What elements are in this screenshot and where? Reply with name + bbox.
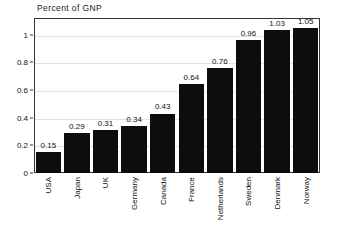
y-tick-label: 0.8	[17, 58, 28, 67]
bar	[64, 133, 90, 173]
bar-value-label: 0.31	[98, 119, 114, 128]
x-label-slot: Denmark	[264, 175, 290, 233]
bar-value-label: 0.29	[69, 122, 85, 131]
bar-slot: 0.96	[236, 18, 262, 173]
bar	[207, 68, 233, 173]
bar-value-label: 0.76	[212, 57, 228, 66]
x-label-slot: Germany	[121, 175, 147, 233]
bar-slot: 0.64	[179, 18, 205, 173]
x-tick-label: Japan	[72, 177, 81, 199]
bar	[179, 84, 205, 173]
bars-layer: 0.150.290.310.340.430.640.760.961.031.05	[34, 18, 320, 173]
bar-value-label: 1.03	[269, 19, 285, 28]
bar	[36, 152, 62, 173]
bar-slot: 0.43	[150, 18, 176, 173]
bar	[121, 126, 147, 173]
bar-slot: 0.31	[93, 18, 119, 173]
bar-value-label: 0.15	[41, 141, 57, 150]
bar-value-label: 1.05	[298, 17, 314, 26]
x-label-slot: Norway	[293, 175, 319, 233]
x-tick-label: Sweden	[244, 177, 253, 206]
x-tick-label: Canada	[158, 177, 167, 205]
bar-slot: 0.15	[36, 18, 62, 173]
bar-value-label: 0.34	[126, 115, 142, 124]
y-tick-mark	[30, 117, 33, 118]
x-tick-label: Norway	[301, 177, 310, 204]
y-tick-mark	[30, 34, 33, 35]
bar	[293, 28, 319, 173]
x-label-slot: UK	[93, 175, 119, 233]
y-tick-label: 0.6	[17, 85, 28, 94]
bar-slot: 1.03	[264, 18, 290, 173]
x-label-slot: Japan	[64, 175, 90, 233]
bar	[264, 30, 290, 173]
x-label-slot: Sweden	[236, 175, 262, 233]
bar-slot: 1.05	[293, 18, 319, 173]
y-axis: 00.20.40.60.81	[0, 18, 32, 173]
bar-slot: 0.29	[64, 18, 90, 173]
y-tick-mark	[30, 89, 33, 90]
x-label-slot: USA	[36, 175, 62, 233]
x-tick-label: Germany	[130, 177, 139, 210]
bar-value-label: 0.64	[184, 73, 200, 82]
y-tick-label: 0.2	[17, 141, 28, 150]
x-tick-label: Netherlands	[215, 177, 224, 220]
x-tick-label: France	[187, 177, 196, 202]
x-label-slot: Canada	[150, 175, 176, 233]
chart-title: Percent of GNP	[37, 3, 102, 13]
x-label-slot: Netherlands	[207, 175, 233, 233]
y-tick-mark	[30, 173, 33, 174]
x-axis-labels: USAJapanUKGermanyCanadaFranceNetherlands…	[34, 175, 320, 233]
x-tick-label: Denmark	[273, 177, 282, 209]
bar-chart: Percent of GNP 00.20.40.60.81 0.150.290.…	[0, 0, 339, 233]
bar-value-label: 0.43	[155, 102, 171, 111]
x-tick-label: UK	[101, 177, 110, 188]
x-label-slot: France	[179, 175, 205, 233]
bar-value-label: 0.96	[241, 29, 257, 38]
bar	[93, 130, 119, 173]
bar	[150, 114, 176, 174]
y-tick-mark	[30, 145, 33, 146]
bar	[236, 40, 262, 173]
y-tick-label: 0	[24, 169, 28, 178]
y-tick-label: 1	[24, 30, 28, 39]
bar-slot: 0.34	[121, 18, 147, 173]
bar-slot: 0.76	[207, 18, 233, 173]
y-tick-mark	[30, 62, 33, 63]
x-tick-label: USA	[44, 177, 53, 193]
y-tick-label: 0.4	[17, 113, 28, 122]
